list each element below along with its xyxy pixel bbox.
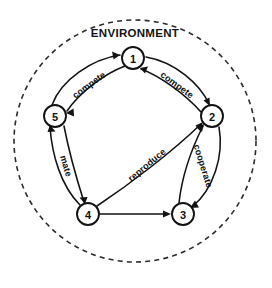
node-1[interactable]: 1 (122, 47, 144, 69)
agent-interaction-diagram: ENVIRONMENT compete compete cooperate (0, 0, 272, 288)
node-4[interactable]: 4 (77, 203, 99, 225)
edge-label-1-2: compete (158, 70, 195, 101)
edge-5-4-mate: mate (48, 125, 88, 205)
node-4-label: 4 (85, 209, 92, 221)
node-3[interactable]: 3 (172, 203, 194, 225)
edge-label-4-2: reproduce (126, 146, 168, 183)
node-2-label: 2 (209, 111, 215, 123)
arrowhead-into-node-3-left (163, 211, 171, 218)
diagram-canvas: ENVIRONMENT compete compete cooperate (0, 0, 272, 288)
node-5-label: 5 (52, 111, 58, 123)
arrowhead-into-node-1-left (112, 52, 120, 60)
edge-2-3-cooperate: cooperate (179, 124, 220, 208)
edge-1-2-compete: compete (140, 57, 210, 112)
arrowhead-into-node-1-right (140, 67, 148, 74)
edge-5-1-compete: compete (52, 52, 125, 117)
edge-4-3-arrow (100, 211, 171, 218)
node-5[interactable]: 5 (44, 105, 66, 127)
node-1-label: 1 (130, 53, 136, 65)
node-3-label: 3 (180, 209, 186, 221)
edge-label-2-3: cooperate (192, 143, 215, 189)
node-2[interactable]: 2 (201, 105, 223, 127)
environment-label: ENVIRONMENT (91, 27, 179, 39)
